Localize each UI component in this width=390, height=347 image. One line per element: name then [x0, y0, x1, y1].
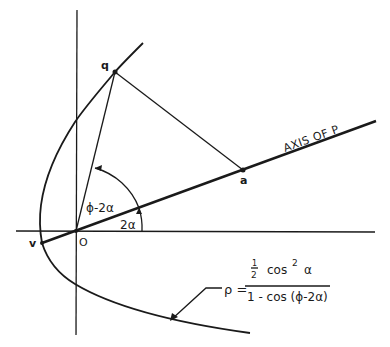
arrowhead-icon [95, 165, 102, 171]
point-o [74, 229, 78, 233]
line-q-a [115, 72, 243, 170]
formula-lhs: ρ = [224, 282, 247, 297]
point-a [241, 168, 246, 173]
label-o: O [79, 236, 88, 249]
formula-half-numerator: 1 [252, 259, 257, 268]
formula-leader-line [172, 288, 222, 319]
axis-of-p-label: AXIS OF P [282, 123, 341, 155]
label-a: a [240, 174, 247, 187]
label-v: v [29, 237, 37, 250]
angle-label-phi-minus-2alpha: ϕ-2α [86, 201, 114, 215]
formula-denominator: 1 - cos (ϕ-2α) [247, 290, 328, 304]
formula-alpha: α [304, 263, 312, 277]
parabola-curve [40, 43, 250, 333]
diagram-canvas: q a O v AXIS OF P ϕ-2α 2α ρ = 1 2 cos 2 … [0, 0, 390, 347]
point-q [113, 70, 118, 75]
formula-half-denominator: 2 [251, 270, 257, 280]
label-q: q [101, 59, 109, 72]
formula-exponent: 2 [292, 258, 298, 268]
formula-cos: cos [267, 263, 287, 277]
point-v [40, 241, 44, 245]
angle-label-2alpha: 2α [120, 218, 136, 232]
vertical-axis [76, 10, 77, 335]
